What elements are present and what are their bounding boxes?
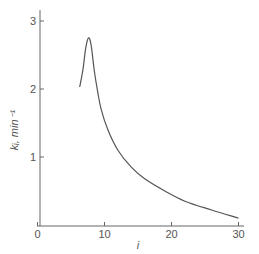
chart: 0102030 123 i kᵢ, min⁻¹ (0, 0, 259, 254)
y-tick-label: 3 (30, 15, 36, 27)
x-axis-label: i (137, 239, 140, 251)
y-tick-label: 2 (30, 83, 36, 95)
x-tick-label: 10 (98, 228, 110, 240)
x-tick-label: 30 (232, 228, 244, 240)
data-line (80, 38, 239, 218)
y-tick-label: 1 (30, 151, 36, 163)
y-axis-label: kᵢ, min⁻¹ (8, 109, 20, 150)
x-ticks: 0102030 (34, 222, 244, 240)
x-tick-label: 20 (165, 228, 177, 240)
y-ticks: 123 (30, 15, 44, 163)
x-tick-label: 0 (34, 228, 40, 240)
